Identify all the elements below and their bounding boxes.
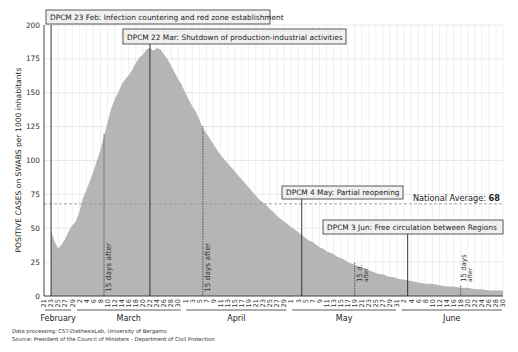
svg-text:150: 150 [26,88,40,97]
y-axis-label: POSITIVE CASES on SWABS per 1000 inhabit… [14,67,23,252]
svg-text:30: 30 [499,299,507,307]
annotation-box: DPCM 22 Mar: Shutdown of production-indu… [123,29,346,44]
svg-text:February: February [40,314,76,323]
footer-data-processing: Data processing: CST-DiathesisLab, Unive… [12,328,167,334]
svg-text:May: May [336,314,353,323]
y-tick-labels: 0255075100125150175200 [26,21,40,301]
svg-text:June: June [442,314,461,323]
x-tick-labels: 2123252729246810121416182022242628301357… [40,299,507,307]
annotation-box: DPCM 3 Jun: Free circulation between Reg… [323,220,503,234]
svg-text:15 days after: 15 days after [104,242,113,292]
svg-text:DPCM 23 Feb: Infection counter: DPCM 23 Feb: Infection countering and re… [50,13,284,22]
svg-text:25: 25 [31,258,41,267]
chart: 15 days after15 days after15 d.after15 d… [0,0,518,352]
national-average-label: National Average: 68 [413,193,500,203]
svg-text:March: March [117,314,141,323]
svg-text:National Average: 68: National Average: 68 [413,193,500,203]
svg-text:200: 200 [26,21,40,30]
annotation-box: DPCM 4 May: Partial reopening [282,186,403,199]
svg-text:100: 100 [26,156,40,165]
svg-text:DPCM 22 Mar: Shutdown of produ: DPCM 22 Mar: Shutdown of production-indu… [127,33,343,42]
svg-text:April: April [227,314,245,323]
svg-text:75: 75 [31,190,41,199]
annotation-box: DPCM 23 Feb: Infection countering and re… [46,10,284,24]
svg-text:175: 175 [26,54,40,63]
footer-source: Source: President of the Council of Mini… [12,336,215,342]
svg-text:DPCM 4 May: Partial reopening: DPCM 4 May: Partial reopening [286,188,400,197]
svg-text:15 days after: 15 days after [203,242,212,292]
svg-text:after: after [362,267,369,282]
month-labels: FebruaryMarchAprilMayJune [40,310,502,323]
svg-text:125: 125 [26,122,40,131]
svg-text:DPCM 3 Jun: Free circulation b: DPCM 3 Jun: Free circulation between Reg… [327,223,497,232]
svg-text:50: 50 [31,224,41,233]
svg-text:after: after [466,267,473,282]
